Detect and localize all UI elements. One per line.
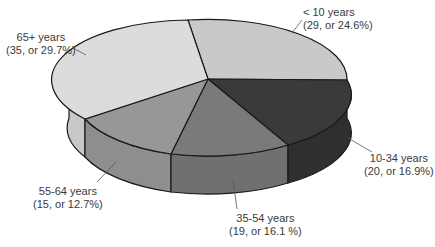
label-65plus: 65+ years (35, or 29.7%) (6, 31, 76, 57)
label-under-10-name: < 10 years (303, 6, 373, 19)
label-65plus-value: (35, or 29.7%) (6, 44, 76, 57)
label-under-10-value: (29, or 24.6%) (303, 19, 373, 32)
label-10-34-value: (20, or 16.9%) (364, 165, 434, 178)
label-55-64-name: 55-64 years (33, 185, 103, 198)
label-35-54: 35-54 years (19, or 16.1 %) (229, 212, 302, 238)
label-under-10: < 10 years (29, or 24.6%) (303, 6, 373, 32)
leader-under-10 (292, 20, 302, 33)
label-35-54-value: (19, or 16.1 %) (229, 225, 302, 238)
leader-10-34 (348, 138, 372, 152)
label-55-64-value: (15, or 12.7%) (33, 198, 103, 211)
label-65plus-name: 65+ years (6, 31, 76, 44)
label-55-64: 55-64 years (15, or 12.7%) (33, 185, 103, 211)
label-10-34: 10-34 years (20, or 16.9%) (364, 152, 434, 178)
label-10-34-name: 10-34 years (364, 152, 434, 165)
label-35-54-name: 35-54 years (229, 212, 302, 225)
